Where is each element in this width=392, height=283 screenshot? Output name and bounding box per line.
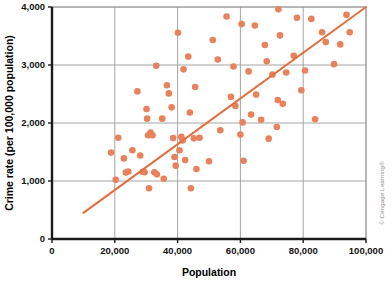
data-point [223, 13, 230, 20]
data-point [279, 101, 286, 108]
data-point [112, 177, 119, 184]
data-point [323, 39, 330, 46]
y-tick-label: 2,000 [21, 117, 45, 128]
data-point [283, 69, 290, 76]
data-point [337, 41, 344, 48]
data-point [248, 111, 255, 118]
data-point [258, 117, 265, 124]
data-point [108, 149, 115, 156]
data-point [171, 154, 178, 161]
y-tick-label: 0 [40, 233, 45, 244]
x-axis-title: Population [182, 266, 236, 278]
data-point [217, 127, 224, 134]
chart-canvas: 01,0002,0003,0004,000 020,00040,00060,00… [0, 0, 392, 283]
data-point [302, 67, 309, 74]
data-point [193, 166, 200, 173]
data-point [209, 37, 216, 44]
data-point [185, 53, 192, 60]
y-axis-ticks: 01,0002,0003,0004,000 [21, 1, 52, 244]
data-point [265, 135, 272, 142]
data-point [343, 12, 350, 19]
data-point [237, 131, 244, 138]
data-point [312, 116, 319, 123]
data-point [172, 162, 179, 169]
y-tick-label: 3,000 [21, 59, 45, 70]
data-point [294, 14, 301, 21]
data-point [149, 132, 156, 139]
data-point [115, 134, 122, 141]
data-point [298, 87, 305, 94]
x-tick-label: 20,000 [100, 245, 129, 256]
data-point [170, 135, 177, 142]
data-point [166, 90, 173, 97]
data-point [125, 168, 132, 175]
x-tick-label: 80,000 [289, 245, 318, 256]
data-point [160, 175, 167, 182]
data-point [206, 158, 213, 165]
data-point [263, 58, 270, 65]
data-point [245, 68, 252, 75]
x-tick-label: 60,000 [226, 245, 255, 256]
data-point [274, 124, 281, 131]
data-point [182, 157, 189, 164]
y-axis-title: Crime rate (per 100,000 population) [3, 35, 15, 211]
data-point [277, 32, 284, 39]
data-point [180, 66, 187, 73]
data-point [228, 94, 235, 101]
data-point [153, 63, 160, 70]
data-point [262, 42, 269, 49]
data-point [230, 63, 237, 70]
data-point [129, 147, 136, 154]
data-point [121, 155, 128, 162]
data-point [143, 106, 150, 113]
data-point [275, 6, 282, 13]
data-point [137, 152, 144, 159]
data-point [331, 61, 338, 68]
data-point [154, 171, 161, 178]
data-point [238, 21, 245, 28]
x-tick-label: 100,000 [349, 245, 383, 256]
data-point [191, 135, 198, 142]
data-point [192, 84, 199, 91]
data-point [164, 82, 171, 89]
x-tick-label: 40,000 [163, 245, 192, 256]
y-tick-label: 1,000 [21, 175, 45, 186]
data-point [239, 119, 246, 126]
y-tick-label: 4,000 [21, 1, 45, 12]
data-point [253, 91, 260, 98]
data-point [319, 29, 326, 36]
data-point [176, 147, 183, 154]
data-point [175, 30, 182, 37]
x-axis-ticks: 020,00040,00060,00080,000100,000 [49, 239, 383, 256]
data-point [159, 115, 166, 122]
data-point [146, 185, 153, 192]
data-point [346, 29, 353, 36]
x-tick-label: 0 [49, 245, 54, 256]
data-point [168, 104, 175, 111]
data-point [214, 56, 221, 63]
scatter-chart-figure: 01,0002,0003,0004,000 020,00040,00060,00… [0, 0, 392, 283]
data-point [144, 115, 151, 122]
data-point [240, 157, 247, 164]
data-point [252, 22, 259, 29]
copyright-credit: © Cengage Learning® [378, 161, 385, 225]
data-point [134, 88, 141, 95]
data-point [187, 185, 194, 192]
data-point [187, 109, 194, 116]
data-point [308, 16, 315, 23]
data-point [196, 134, 203, 141]
